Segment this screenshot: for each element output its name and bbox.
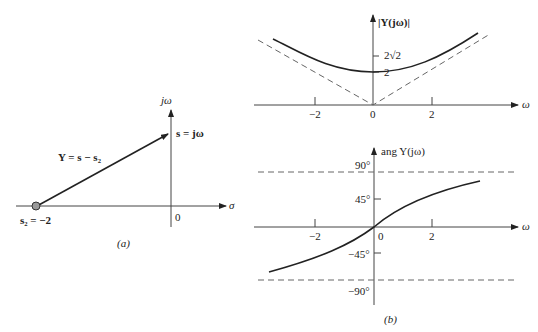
magnitude-ytick-2: 2	[384, 66, 390, 78]
magnitude-y-label: |Y(jω)|	[378, 16, 410, 28]
figure-canvas	[0, 0, 538, 332]
caption-a: (a)	[117, 237, 130, 249]
origin-label: 0	[175, 211, 181, 223]
phase-ytick-neg90: −90°	[348, 285, 370, 297]
point-s2-label: s₂ = −2	[20, 214, 51, 226]
magnitude-xtick-neg2: −2	[309, 108, 321, 120]
sigma-axis-label: σ	[229, 199, 234, 211]
caption-b: (b)	[384, 313, 397, 325]
magnitude-ytick-2sqrt2: 2√2	[384, 49, 401, 61]
vector-label: Y = s − s₂	[58, 151, 101, 163]
phase-xtick-0: 0	[378, 230, 384, 242]
phase-ytick-45: 45°	[355, 193, 370, 205]
phase-ytick-neg45: −45°	[348, 248, 370, 260]
phase-xtick-neg2: −2	[309, 230, 321, 242]
phase-x-label: ω	[522, 220, 530, 232]
jw-axis-label: jω	[161, 94, 172, 106]
magnitude-xtick-2: 2	[429, 108, 435, 120]
magnitude-asymptote	[258, 34, 490, 105]
vector-y	[37, 134, 168, 206]
phase-ytick-90: 90°	[355, 159, 370, 171]
zero-s2-marker	[32, 202, 40, 210]
point-s-label: s = jω	[176, 127, 204, 139]
phase-plot	[254, 148, 518, 305]
magnitude-x-label: ω	[522, 98, 530, 110]
phase-xtick-2: 2	[429, 230, 435, 242]
phase-y-label: ang Y(jω)	[381, 145, 425, 157]
magnitude-xtick-0: 0	[370, 108, 376, 120]
